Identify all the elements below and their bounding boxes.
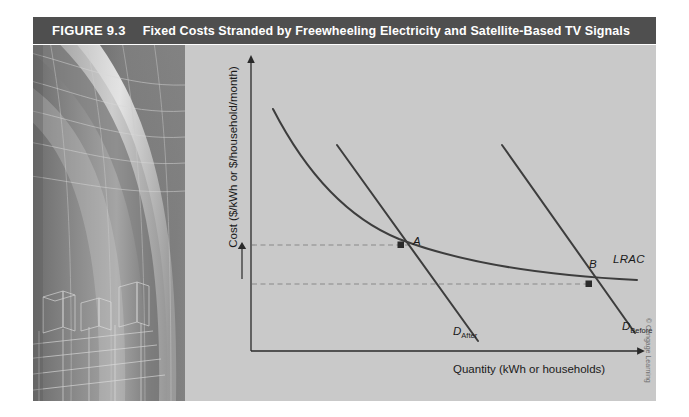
x-axis-title: Quantity (kWh or households) <box>453 363 605 375</box>
line-demand-after <box>337 145 478 341</box>
label-curve-lrac: LRAC <box>613 253 645 265</box>
point-marker-b <box>586 281 593 288</box>
y-axis-title: Cost ($/kWh or $/household/month) <box>227 47 239 267</box>
decorative-architecture-photo <box>33 45 185 401</box>
figure-title-bar: FIGURE 9.3 Fixed Costs Stranded by Freew… <box>33 17 656 44</box>
label-d-after-sub: After <box>461 331 477 340</box>
line-demand-before <box>502 145 635 333</box>
label-point-a: A <box>413 235 421 247</box>
figure-body-panel: Cost ($/kWh or $/household/month) Quanti… <box>33 45 656 401</box>
chart-svg <box>185 45 656 401</box>
label-curve-d-after: DAfter <box>453 325 477 340</box>
figure-title: Fixed Costs Stranded by Freewheeling Ele… <box>143 24 630 38</box>
figure-number: FIGURE 9.3 <box>52 23 126 38</box>
photo-artwork <box>33 45 185 401</box>
figure-container: FIGURE 9.3 Fixed Costs Stranded by Freew… <box>0 0 689 417</box>
chart-plot-area: Cost ($/kWh or $/household/month) Quanti… <box>185 45 656 401</box>
curve-lrac <box>273 109 637 280</box>
point-marker-a <box>398 242 405 249</box>
label-point-b: B <box>589 258 597 270</box>
copyright-credit: © Cengage Learning <box>645 318 652 383</box>
